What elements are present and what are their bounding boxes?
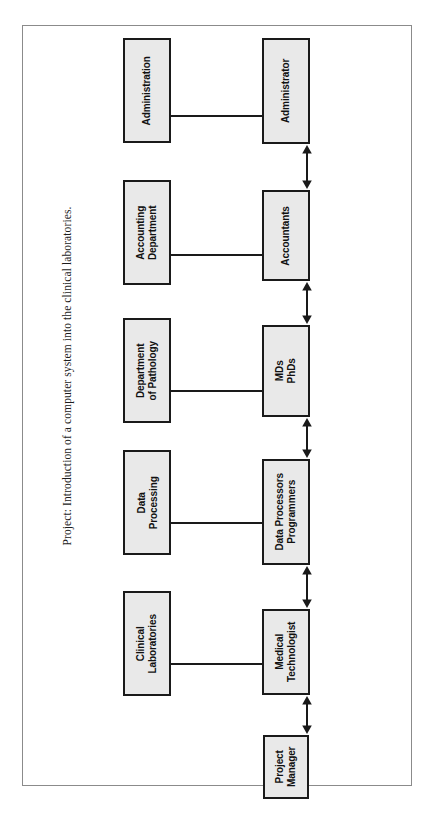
node-data-processors[interactable]: Data Processors Programmers <box>262 459 310 565</box>
node-medical-technologist[interactable]: Medical Technologist <box>262 609 310 695</box>
connector-clinicallabs-medicaltechnologist <box>171 663 262 665</box>
node-accounting-department[interactable]: Accounting Department <box>123 180 171 285</box>
node-project-manager-label: Project Manager <box>274 747 298 787</box>
node-administrator[interactable]: Administrator <box>262 38 310 144</box>
diagram-canvas: Administration Accounting Department Dep… <box>23 26 413 787</box>
arrow-dataprocessors-medicaltechnologist <box>300 566 314 608</box>
node-administrator-label: Administrator <box>280 59 292 123</box>
node-clinical-laboratories[interactable]: Clinical Laboratories <box>123 591 171 696</box>
node-accounting-department-label: Accounting Department <box>135 205 159 260</box>
node-data-processing[interactable]: Data Processing <box>123 450 171 555</box>
arrow-administrator-accountants <box>300 145 314 189</box>
node-project-manager[interactable]: Project Manager <box>263 735 309 799</box>
node-medical-technologist-label: Medical Technologist <box>274 622 298 682</box>
connector-accounting-accountants <box>171 254 262 256</box>
node-administration[interactable]: Administration <box>123 38 171 143</box>
node-accountants[interactable]: Accountants <box>262 190 310 281</box>
page-frame: Project: Introduction of a computer syst… <box>22 25 412 786</box>
arrow-mds-phds-dataprocessors <box>300 418 314 458</box>
arrow-medicaltechnologist-projectmanager <box>300 696 314 734</box>
node-department-of-pathology-label: Department of Pathology <box>135 341 159 400</box>
node-accountants-label: Accountants <box>280 206 292 265</box>
connector-pathology-mds-phds <box>171 390 262 392</box>
node-clinical-laboratories-label: Clinical Laboratories <box>135 614 159 673</box>
node-data-processing-label: Data Processing <box>135 476 159 529</box>
connector-dataprocessing-dataprocessors <box>171 522 262 524</box>
diagram-title: Project: Introduction of a computer syst… <box>47 0 77 26</box>
node-mds-phds[interactable]: MDs PhDs <box>262 325 310 417</box>
arrow-accountants-mds-phds <box>300 282 314 324</box>
node-mds-phds-label: MDs PhDs <box>274 358 298 383</box>
node-data-processors-label: Data Processors Programmers <box>274 473 298 550</box>
connector-administration-administrator <box>171 115 262 117</box>
node-department-of-pathology[interactable]: Department of Pathology <box>123 318 171 423</box>
node-administration-label: Administration <box>141 56 153 125</box>
